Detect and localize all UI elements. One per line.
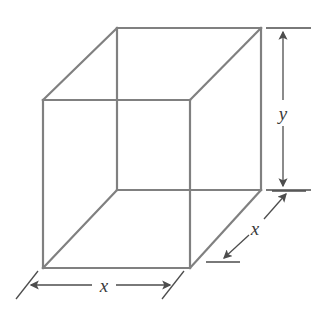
- depth-arrow-lower: [224, 235, 249, 258]
- box-connecting-edges: [43, 28, 261, 268]
- edge-front-tr-to-back-tr: [190, 28, 261, 100]
- edge-front-bl-to-back-bl: [43, 190, 117, 268]
- width-label: x: [99, 275, 109, 296]
- depth-arrow-upper: [264, 194, 286, 219]
- figure-container: y x x: [0, 0, 320, 311]
- depth-label: x: [250, 218, 260, 239]
- edge-front-tl-to-back-tl: [43, 28, 117, 100]
- geometry-figure-svg: y x x: [0, 0, 320, 311]
- height-label: y: [277, 103, 288, 124]
- height-dimension-group: [266, 28, 311, 190]
